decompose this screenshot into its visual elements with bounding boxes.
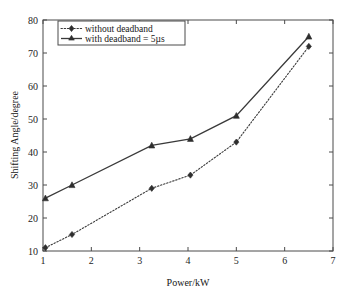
y-tick-label: 20 <box>28 213 38 224</box>
y-tick-label: 10 <box>28 246 38 257</box>
y-tick-label: 70 <box>28 48 38 59</box>
y-tick-label: 50 <box>28 114 38 125</box>
legend-label-1: with deadband = 5µs <box>85 34 165 44</box>
x-tick-label: 1 <box>41 255 46 266</box>
plot-border <box>43 20 333 251</box>
chart-figure: 12345671020304050607080 Power/kW Shiftin… <box>0 0 357 297</box>
legend-label-0: without deadband <box>85 24 153 34</box>
y-axis-title: Shifting Angle/degree <box>9 90 20 179</box>
x-tick-label: 2 <box>89 255 94 266</box>
y-tick-label: 60 <box>28 81 38 92</box>
plot-frame <box>43 20 333 251</box>
x-tick-label: 5 <box>234 255 239 266</box>
y-tick-label: 30 <box>28 180 38 191</box>
y-tick-label: 80 <box>28 15 38 26</box>
x-tick-label: 4 <box>186 255 191 266</box>
x-axis-title: Power/kW <box>167 277 210 288</box>
x-tick-label: 6 <box>282 255 287 266</box>
line-chart-plot: 12345671020304050607080 Power/kW Shiftin… <box>0 0 357 297</box>
legend: without deadband with deadband = 5µs <box>58 21 185 45</box>
x-tick-label: 3 <box>137 255 142 266</box>
x-tick-label: 7 <box>331 255 336 266</box>
y-tick-label: 40 <box>28 147 38 158</box>
